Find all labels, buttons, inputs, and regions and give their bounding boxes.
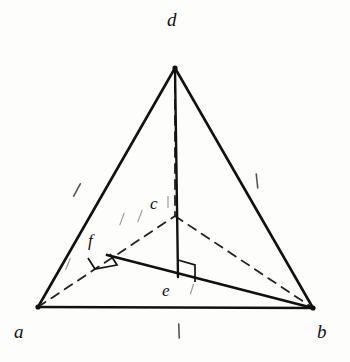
- vertex-point-a: [35, 304, 40, 309]
- tick-mark-edge-a-c-inner: [120, 213, 124, 224]
- vertex-label-b: b: [317, 322, 327, 341]
- vertex-label-c: c: [150, 195, 158, 212]
- tick-mark-near-e: [190, 284, 193, 294]
- segment-d-e: [175, 68, 178, 277]
- vertex-point-d: [172, 65, 177, 70]
- vertex-label-e: e: [162, 282, 170, 299]
- edge-a-d: [38, 68, 175, 307]
- vertex-label-d: d: [167, 10, 177, 29]
- vertex-label-f: f: [88, 232, 93, 249]
- edge-a-c: [38, 216, 175, 307]
- edge-a-b: [38, 307, 313, 308]
- tick-mark-edge-b-d: [256, 174, 257, 188]
- vertex-label-a: a: [14, 322, 24, 341]
- vertex-point-b: [310, 305, 315, 310]
- tick-mark-edge-a-c-outer: [138, 210, 142, 221]
- tick-mark-segment-a-f: [66, 258, 70, 269]
- tetrahedron-drawing: [0, 0, 350, 362]
- tick-mark-edge-a-d: [74, 184, 81, 196]
- edge-c-b: [175, 216, 313, 308]
- right-angle-mark-e: [178, 260, 195, 282]
- segment-f-b: [107, 255, 313, 308]
- edges-layer: [38, 68, 313, 308]
- geometry-figure: a b c d e f: [0, 0, 350, 362]
- tick-marks-layer: [66, 174, 258, 338]
